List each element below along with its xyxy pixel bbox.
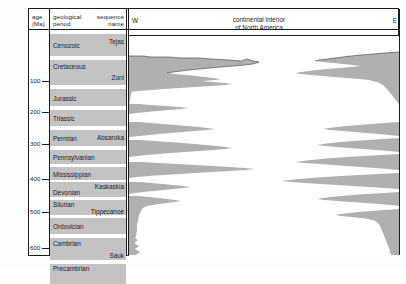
period-label-cenozoic: Cenozoic bbox=[53, 42, 80, 49]
period-label-cambrian: Cambrian bbox=[53, 240, 81, 247]
period-band-jurassic: Jurassic bbox=[50, 89, 126, 106]
direction-label-west: W bbox=[132, 17, 138, 24]
sequence-label-absaroka: Absaroka bbox=[97, 134, 124, 141]
age-tick-400: 400 bbox=[29, 175, 49, 182]
period-label-mississippian: Mississippian bbox=[53, 170, 91, 177]
period-label-triassic: Triassic bbox=[53, 115, 75, 122]
wedge-east-sauk bbox=[335, 209, 399, 255]
wedge-east-tejas-zuni bbox=[295, 52, 399, 104]
period-label-cretaceous: Cretaceous bbox=[53, 63, 86, 70]
sequence-label-tejas: Tejas bbox=[109, 38, 124, 45]
sequence-column-header: sequence name bbox=[87, 13, 124, 28]
age-tick-100-mark bbox=[42, 81, 49, 82]
age-tick-600-label: 600 bbox=[30, 244, 40, 251]
age-tick-300: 300 bbox=[29, 140, 49, 147]
age-tick-200-label: 200 bbox=[30, 108, 40, 115]
period-band-triassic: Triassic bbox=[50, 110, 126, 126]
period-band-cretaceous: Cretaceous Zuni bbox=[50, 60, 126, 85]
age-tick-300-mark bbox=[42, 144, 49, 145]
period-band-ordovician: Ordovician bbox=[50, 218, 126, 234]
period-band-cenozoic: Cenozoic Tejas bbox=[50, 34, 126, 56]
age-column-header: age (Ma) bbox=[32, 13, 45, 28]
sequence-label-kaskaskia: Kaskaskia bbox=[95, 183, 124, 190]
period-label-jurassic: Jurassic bbox=[53, 94, 76, 101]
period-label-devonian: Devonian bbox=[53, 189, 80, 196]
period-label-precambrian: Precambrian bbox=[53, 265, 89, 272]
wedge-west-tippecanoe-lower bbox=[129, 182, 191, 194]
wedge-east-kaskaskia-upper bbox=[317, 138, 399, 152]
wedge-east-absaroka bbox=[323, 122, 399, 136]
age-tick-300-label: 300 bbox=[30, 140, 40, 147]
period-band-cambrian: Cambrian Sauk bbox=[50, 238, 126, 260]
rule-section-east-edge bbox=[399, 9, 400, 255]
age-tick-200: 200 bbox=[29, 108, 49, 115]
period-label-permian: Permian bbox=[53, 135, 77, 142]
section-caption: continental interior of North America bbox=[179, 16, 339, 31]
age-tick-500-mark bbox=[42, 212, 49, 213]
wedge-east-tippecanoe-lower bbox=[317, 192, 399, 206]
sequence-label-tippecanoe: Tippecanoe bbox=[91, 208, 124, 215]
period-band-silurian: Silurian Tippecanoe bbox=[50, 200, 126, 215]
age-tick-600-mark bbox=[42, 248, 49, 249]
period-label-ordovician: Ordovician bbox=[53, 223, 84, 230]
wedge-east-tippecanoe-upper bbox=[281, 173, 399, 189]
chart-frame: age (Ma) geological period sequence name… bbox=[28, 8, 399, 256]
period-label-silurian: Silurian bbox=[53, 201, 74, 208]
age-tick-400-mark bbox=[42, 179, 49, 180]
age-tick-600: 600 bbox=[29, 244, 49, 251]
sequence-label-sauk: Sauk bbox=[109, 252, 124, 259]
age-tick-500-label: 500 bbox=[30, 208, 40, 215]
rule-period-section bbox=[126, 9, 127, 255]
wedge-east-kaskaskia-lower bbox=[295, 154, 399, 170]
sequence-label-zuni: Zuni bbox=[112, 74, 124, 81]
wedge-west-tippecanoe-upper bbox=[129, 162, 255, 178]
age-tick-500: 500 bbox=[29, 208, 49, 215]
wedge-west-kaskaskia bbox=[129, 140, 233, 157]
age-tick-200-mark bbox=[42, 112, 49, 113]
age-tick-100: 100 bbox=[29, 77, 49, 84]
sequence-wedges-svg bbox=[129, 36, 399, 256]
wedge-west-absaroka-main bbox=[129, 122, 215, 137]
cross-section-plot bbox=[129, 36, 399, 256]
period-band-devonian: Devonian Kaskaskia bbox=[50, 182, 126, 197]
period-label-pennsylvanian: Pennsylvanian bbox=[53, 154, 95, 161]
period-band-pennsylvanian: Pennsylvanian bbox=[50, 150, 126, 164]
direction-label-east: E bbox=[381, 17, 397, 24]
wedge-west-absaroka-upper bbox=[129, 104, 189, 114]
age-tick-400-label: 400 bbox=[30, 175, 40, 182]
period-band-mississippian: Mississippian bbox=[50, 167, 126, 180]
age-tick-100-label: 100 bbox=[30, 77, 40, 84]
period-band-precambrian: Precambrian bbox=[50, 264, 126, 284]
period-column-header: geological period bbox=[53, 13, 81, 28]
period-band-permian: Permian Absaroka bbox=[50, 130, 126, 146]
